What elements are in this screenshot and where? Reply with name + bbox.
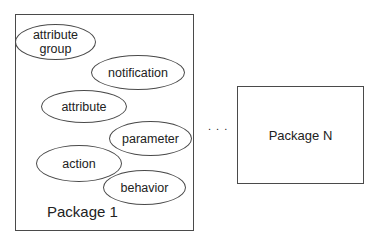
action-ellipse: action	[36, 145, 122, 182]
attribute-group-label-line2: group	[33, 42, 78, 56]
behavior-ellipse: behavior	[103, 170, 186, 205]
parameter-ellipse: parameter	[109, 121, 192, 156]
behavior-label: behavior	[121, 181, 169, 195]
package-1-label: Package 1	[47, 203, 118, 220]
notification-ellipse: notification	[91, 55, 185, 90]
attribute-label: attribute	[61, 100, 106, 114]
package-n-label: Package N	[269, 128, 333, 143]
parameter-label: parameter	[122, 132, 179, 146]
ellipsis-dots: . . .	[208, 120, 228, 132]
package-n-box: Package N	[237, 86, 364, 184]
notification-label: notification	[108, 66, 168, 80]
action-label: action	[62, 157, 95, 171]
attribute-group-ellipse: attribute group	[15, 24, 96, 60]
attribute-ellipse: attribute	[41, 90, 127, 123]
attribute-group-label-line1: attribute	[33, 28, 78, 42]
